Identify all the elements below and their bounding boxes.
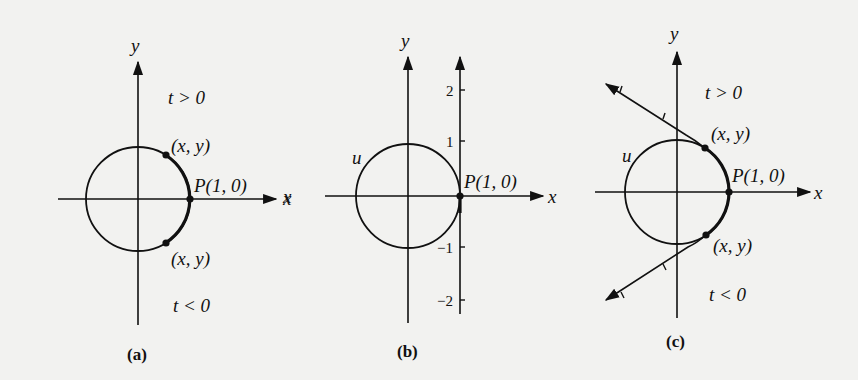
- tick-label-minus-1: −1: [437, 240, 453, 256]
- point-p-label: P(1, 0): [463, 171, 517, 193]
- lower-line-tick: [621, 292, 624, 298]
- lower-line-tick: [663, 264, 666, 270]
- panel-a: y x t > 0 (x, y) P(1, 0) (x, y) t < 0 (a…: [58, 35, 292, 364]
- unit-circle-figure: y x t > 0 (x, y) P(1, 0) (x, y) t < 0 (a…: [0, 0, 858, 380]
- region-lower-label: t < 0: [709, 284, 747, 305]
- point-upper: [162, 151, 169, 158]
- lower-point-label: (x, y): [713, 235, 752, 257]
- panel-c: y x t > 0 (x, y) u P(1, 0) (x, y) t < 0 …: [595, 23, 823, 351]
- circle-label-u: u: [352, 147, 362, 168]
- upper-point-label: (x, y): [711, 123, 750, 145]
- point-p-label: P(1, 0): [193, 175, 247, 197]
- upper-line-tick: [663, 113, 665, 119]
- tick-label-minus-2: −2: [437, 293, 453, 309]
- tick-label-2: 2: [446, 83, 454, 99]
- region-upper-label: t > 0: [705, 82, 743, 103]
- upper-point-label: (x, y): [171, 135, 210, 157]
- lower-wrapping-line: [606, 235, 706, 300]
- y-axis-label: y: [668, 23, 679, 44]
- point-p: [725, 188, 732, 195]
- upper-line-tick: [620, 86, 622, 92]
- region-lower-label: t < 0: [173, 295, 211, 316]
- caption-c: (c): [666, 332, 685, 351]
- point-upper: [701, 144, 708, 151]
- lower-point-label: (x, y): [171, 248, 210, 270]
- point-p: [456, 192, 463, 199]
- x-axis-label-right: x: [547, 186, 557, 207]
- x-axis-label: x: [813, 182, 823, 203]
- point-lower: [162, 239, 169, 246]
- y-axis-label: y: [129, 35, 140, 56]
- x-axis-label-left: x: [282, 186, 292, 207]
- region-upper-label: t > 0: [168, 87, 206, 108]
- circle-label-u: u: [622, 145, 632, 166]
- panel-b: 2 1 −1 −2 y x x u P(1, 0) (b): [282, 30, 557, 361]
- caption-a: (a): [127, 345, 147, 364]
- point-lower: [702, 231, 709, 238]
- tick-label-1: 1: [446, 134, 454, 150]
- caption-b: (b): [397, 342, 418, 361]
- point-p: [186, 195, 193, 202]
- upper-wrapping-line: [606, 84, 705, 148]
- y-axis-label: y: [399, 30, 410, 51]
- point-p-label: P(1, 0): [731, 165, 785, 187]
